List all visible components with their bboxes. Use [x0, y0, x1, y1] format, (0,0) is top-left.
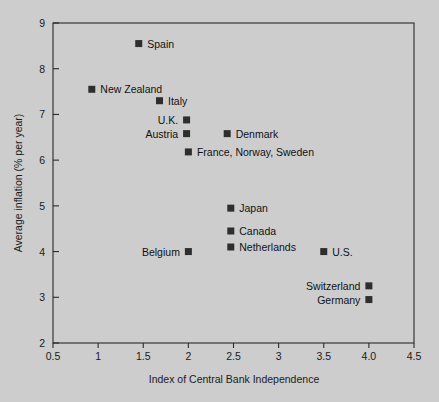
data-point-label: Italy [168, 95, 188, 107]
x-tick-label: 1 [95, 350, 101, 362]
x-axis-ticks: 0.511.522.533.54.04.5 [46, 343, 422, 362]
data-point-label: Austria [145, 128, 178, 140]
data-point: Belgium [142, 246, 192, 258]
x-tick-label: 2.5 [226, 350, 241, 362]
data-point-label: U.S. [332, 246, 352, 258]
data-point: New Zealand [88, 83, 162, 95]
data-point: Japan [227, 202, 268, 214]
data-point-marker [320, 248, 327, 255]
data-point: Canada [227, 225, 276, 237]
data-point-label: U.K. [158, 114, 178, 126]
data-point-marker [183, 116, 190, 123]
data-point-marker [224, 130, 231, 137]
data-point-marker [365, 282, 372, 289]
data-point-label: Switzerland [306, 280, 360, 292]
data-point-marker [227, 205, 234, 212]
scatter-chart-figure: 0.511.522.533.54.04.5 23456789 SpainNew … [0, 0, 439, 402]
x-tick-label: 3.5 [316, 350, 331, 362]
y-tick-label: 5 [39, 200, 45, 212]
x-tick-label: 0.5 [46, 350, 61, 362]
data-point-marker [227, 244, 234, 251]
data-point-marker [227, 228, 234, 235]
data-point-marker [365, 296, 372, 303]
data-point: Switzerland [306, 280, 372, 292]
y-axis-title: Average inflation (% per year) [12, 114, 24, 253]
x-tick-label: 3 [276, 350, 282, 362]
data-point: Germany [317, 294, 372, 306]
x-tick-label: 2 [185, 350, 191, 362]
data-point: Denmark [224, 128, 279, 140]
data-point: Netherlands [227, 241, 296, 253]
y-axis-ticks: 23456789 [39, 17, 59, 349]
data-point: France, Norway, Sweden [185, 146, 314, 158]
plot-canvas: 0.511.522.533.54.04.5 23456789 SpainNew … [0, 0, 439, 402]
y-tick-label: 6 [39, 154, 45, 166]
y-tick-label: 7 [39, 108, 45, 120]
data-point-label: Germany [317, 294, 361, 306]
y-tick-label: 4 [39, 246, 45, 258]
data-points: SpainNew ZealandItalyU.K.AustriaDenmarkF… [88, 38, 372, 306]
data-point: U.K. [158, 114, 190, 126]
x-axis-title: Index of Central Bank Independence [149, 373, 320, 385]
x-tick-label: 4.0 [362, 350, 377, 362]
data-point-label: New Zealand [100, 83, 162, 95]
data-point-marker [88, 86, 95, 93]
data-point-label: Belgium [142, 246, 180, 258]
x-tick-label: 4.5 [407, 350, 422, 362]
x-tick-label: 1.5 [136, 350, 151, 362]
data-point-label: Netherlands [239, 241, 296, 253]
data-point: Austria [145, 128, 190, 140]
data-point: Italy [156, 95, 188, 107]
data-point-marker [135, 40, 142, 47]
data-point-marker [185, 148, 192, 155]
data-point-label: France, Norway, Sweden [197, 146, 314, 158]
data-point-marker [156, 97, 163, 104]
data-point: Spain [135, 38, 174, 50]
data-point-marker [183, 130, 190, 137]
y-tick-label: 9 [39, 17, 45, 29]
y-tick-label: 3 [39, 291, 45, 303]
data-point: U.S. [320, 246, 352, 258]
data-point-marker [185, 248, 192, 255]
data-point-label: Spain [147, 38, 174, 50]
data-point-label: Denmark [236, 128, 279, 140]
data-point-label: Canada [239, 225, 276, 237]
data-point-label: Japan [239, 202, 268, 214]
y-tick-label: 8 [39, 63, 45, 75]
y-tick-label: 2 [39, 337, 45, 349]
